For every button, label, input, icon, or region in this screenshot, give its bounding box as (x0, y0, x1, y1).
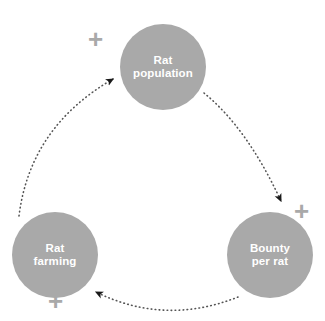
node-bounty-per-rat-label: Bounty per rat (246, 242, 294, 268)
causal-loop-diagram: Rat population Rat farming Bounty per ra… (0, 0, 325, 321)
node-rat-population-label: Rat population (129, 54, 197, 80)
polarity-sign-rat-farming-to-rat-population: + (88, 26, 103, 52)
polarity-sign-rat-population-to-bounty: + (294, 198, 309, 224)
link-rat-farming-to-rat-population (19, 79, 113, 216)
polarity-sign-bounty-to-rat-farming: + (48, 288, 63, 314)
link-bounty-to-rat-farming (96, 292, 238, 310)
node-rat-farming-label: Rat farming (30, 242, 81, 268)
node-rat-population[interactable]: Rat population (120, 24, 206, 110)
link-rat-population-to-bounty (204, 93, 281, 201)
